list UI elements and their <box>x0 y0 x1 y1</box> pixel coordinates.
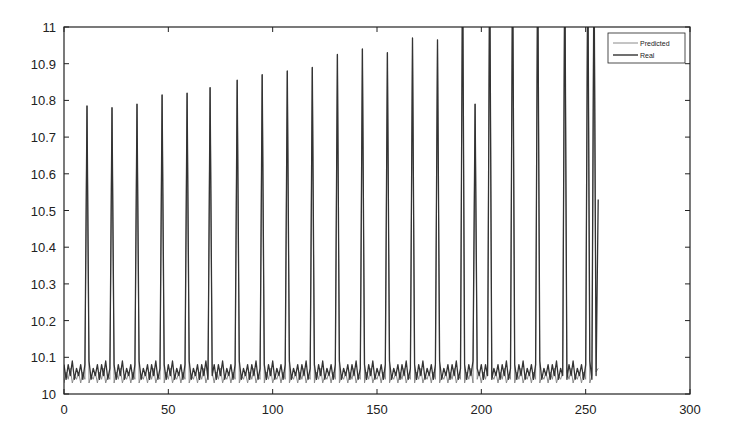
y-tick-label: 10.2 <box>31 314 56 329</box>
y-tick-label: 10.6 <box>31 167 56 182</box>
y-tick-label: 10.5 <box>31 204 56 219</box>
x-tick-label: 100 <box>262 402 284 417</box>
x-tick-label: 300 <box>679 402 701 417</box>
x-tick-label: 0 <box>60 402 67 417</box>
legend-box <box>608 33 685 63</box>
x-axis: 050100150200250300 <box>60 27 700 417</box>
x-tick-label: 250 <box>575 402 597 417</box>
legend-label-predicted: Predicted <box>640 40 670 47</box>
series-lines <box>64 0 598 383</box>
legend-label-real: Real <box>640 52 655 59</box>
y-tick-label: 10.9 <box>31 57 56 72</box>
y-tick-label: 10.4 <box>31 240 56 255</box>
y-tick-label: 11 <box>43 20 57 35</box>
x-tick-label: 200 <box>470 402 492 417</box>
y-tick-label: 10.7 <box>31 130 56 145</box>
series-predicted <box>64 0 598 383</box>
y-tick-label: 10.3 <box>31 277 56 292</box>
series-real <box>64 0 598 379</box>
y-tick-label: 10.1 <box>31 350 56 365</box>
line-chart: 050100150200250300 1010.110.210.310.410.… <box>0 0 729 445</box>
y-tick-label: 10.8 <box>31 93 56 108</box>
legend: Predicted Real <box>608 33 685 63</box>
x-tick-label: 150 <box>366 402 388 417</box>
x-tick-label: 50 <box>161 402 175 417</box>
y-tick-label: 10 <box>42 387 56 402</box>
